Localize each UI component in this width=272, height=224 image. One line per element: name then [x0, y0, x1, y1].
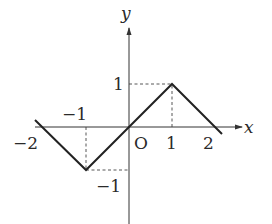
x-axis-label: x — [244, 117, 254, 137]
tick-x-1: 1 — [166, 133, 177, 153]
tick-y-1: 1 — [113, 74, 124, 94]
origin-label: O — [134, 133, 148, 153]
tick-x-neg1: −1 — [62, 104, 87, 124]
y-axis-label: y — [120, 3, 131, 23]
tick-y-neg1: −1 — [96, 176, 121, 196]
function-graph: x y O 1 2 −1 −2 1 −1 — [0, 0, 272, 224]
tick-x-2: 2 — [203, 133, 214, 153]
tick-x-neg2: −2 — [13, 133, 38, 153]
